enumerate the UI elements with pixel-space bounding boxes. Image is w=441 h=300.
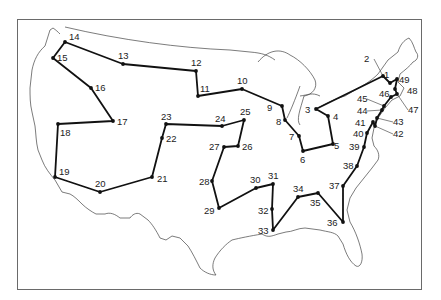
city-dot — [63, 40, 67, 44]
city-number-label: 28 — [199, 176, 210, 187]
city-number-label: 30 — [250, 174, 261, 185]
city-dot — [53, 175, 57, 179]
city-stop-46: 46 — [379, 88, 393, 99]
city-dot — [210, 179, 214, 183]
city-dot — [380, 108, 384, 112]
city-dot — [254, 186, 258, 190]
city-stop-15: 15 — [51, 52, 67, 63]
city-dot — [56, 122, 60, 126]
city-number-label: 4 — [333, 111, 338, 122]
city-number-label: 1 — [384, 69, 389, 80]
city-number-label: 21 — [157, 173, 168, 184]
city-dot — [160, 136, 164, 140]
city-dot — [382, 104, 386, 108]
city-stop-2: 2 — [364, 53, 385, 78]
city-number-label: 34 — [293, 183, 304, 194]
city-stop-49: 49 — [395, 74, 409, 85]
city-dot — [381, 74, 385, 78]
city-stop-17: 17 — [111, 116, 127, 127]
city-number-label: 2 — [364, 53, 369, 64]
city-dot — [326, 114, 330, 118]
city-dot — [121, 62, 125, 66]
city-dot — [222, 145, 226, 149]
label-leader-line — [367, 99, 384, 106]
city-dot — [395, 92, 399, 96]
city-number-label: 11 — [200, 83, 210, 94]
city-number-label: 8 — [276, 116, 281, 127]
city-dot — [196, 94, 200, 98]
city-number-label: 33 — [258, 225, 269, 236]
city-stop-28: 28 — [199, 176, 214, 187]
city-dot — [236, 144, 240, 148]
city-number-label: 13 — [118, 50, 129, 61]
city-stop-41: 41 — [355, 117, 375, 128]
city-stop-16: 16 — [89, 82, 105, 93]
city-number-label: 36 — [327, 217, 338, 228]
city-dot — [393, 87, 397, 91]
city-dot — [362, 145, 366, 149]
city-stop-43: 43 — [375, 116, 403, 127]
city-dot — [297, 134, 301, 138]
city-number-label: 42 — [393, 128, 404, 139]
city-dot — [111, 119, 115, 123]
label-leader-line — [375, 126, 393, 134]
label-leader-line — [397, 94, 408, 110]
city-number-label: 16 — [95, 82, 106, 93]
city-number-label: 37 — [329, 180, 340, 191]
city-dot — [355, 164, 359, 168]
city-number-label: 7 — [289, 131, 294, 142]
city-number-label: 19 — [59, 166, 70, 177]
city-dot — [341, 184, 345, 188]
city-dot — [150, 175, 154, 179]
city-dot — [164, 122, 168, 126]
city-stop-1: 1 — [384, 69, 392, 85]
city-dot — [341, 220, 345, 224]
city-stop-31: 31 — [268, 170, 279, 186]
city-dot — [314, 107, 318, 111]
city-stop-29: 29 — [204, 205, 221, 216]
city-number-label: 17 — [117, 116, 128, 127]
city-dot — [271, 228, 275, 232]
city-number-label: 26 — [242, 141, 253, 152]
city-number-label: 40 — [353, 128, 364, 139]
city-number-label: 12 — [191, 57, 202, 68]
label-leader-line — [367, 110, 382, 111]
city-number-label: 31 — [268, 170, 279, 181]
city-number-label: 3 — [305, 104, 310, 115]
city-number-label: 45 — [357, 93, 368, 104]
city-dot — [240, 87, 244, 91]
city-dot — [283, 118, 287, 122]
city-number-label: 9 — [267, 102, 272, 113]
city-dot — [316, 191, 320, 195]
city-dot — [271, 182, 275, 186]
city-number-label: 10 — [237, 75, 248, 86]
city-dot — [217, 206, 221, 210]
city-number-label: 25 — [240, 106, 251, 117]
city-dot — [98, 190, 102, 194]
city-number-label: 47 — [408, 104, 419, 115]
city-dot — [242, 118, 246, 122]
city-number-label: 14 — [69, 31, 80, 42]
city-number-label: 39 — [349, 141, 360, 152]
us-tour-map: 1234567891011121314151617181920212223242… — [0, 0, 441, 300]
city-dot — [270, 207, 274, 211]
city-dot — [51, 56, 55, 60]
city-stop-10: 10 — [237, 75, 248, 91]
city-dot — [388, 81, 392, 85]
city-number-label: 49 — [399, 74, 410, 85]
city-number-label: 48 — [407, 85, 418, 96]
city-dot — [301, 149, 305, 153]
city-number-label: 6 — [300, 154, 305, 165]
city-number-label: 44 — [357, 105, 368, 116]
city-number-label: 18 — [60, 127, 71, 138]
city-stop-25: 25 — [240, 106, 251, 122]
city-number-label: 32 — [258, 205, 269, 216]
city-number-label: 23 — [161, 111, 172, 122]
city-dot — [280, 104, 284, 108]
city-dot — [371, 120, 375, 124]
city-dot — [194, 69, 198, 73]
tour-route — [53, 42, 397, 230]
city-dot — [375, 116, 379, 120]
city-number-label: 24 — [215, 113, 226, 124]
city-stops: 1234567891011121314151617181920212223242… — [51, 31, 418, 236]
